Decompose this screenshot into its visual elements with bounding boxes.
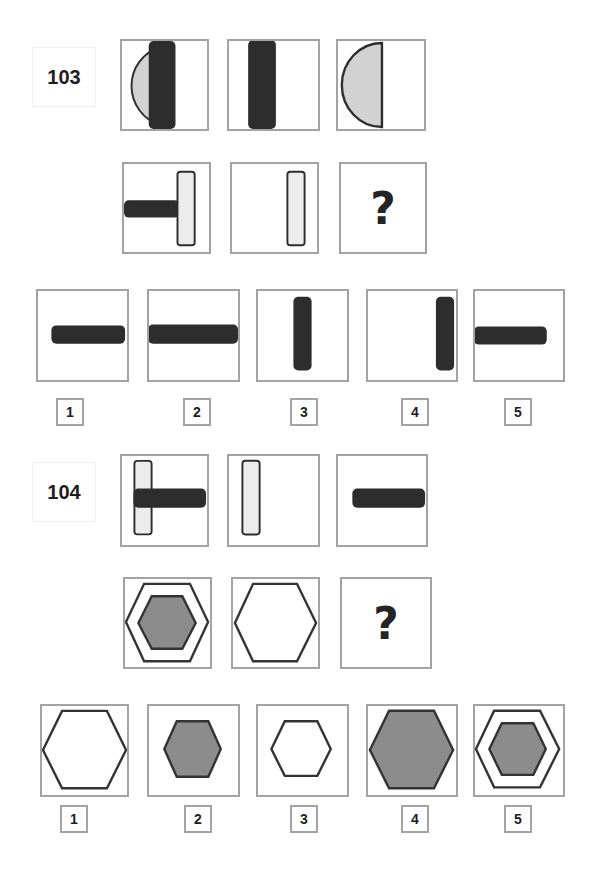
semicircle-left-icon: [338, 41, 424, 129]
horizontal-dark-bar-icon: [149, 291, 238, 380]
option-label-103-3[interactable]: 3: [290, 398, 318, 426]
matrix-cell-104-r1c2: [227, 454, 320, 547]
matrix-cell-103-r1c2: [227, 39, 320, 131]
horizontal-dark-bar-icon: [338, 456, 426, 545]
gray-hexagon-medium-icon: [149, 706, 238, 795]
problem-number-104: 104: [32, 462, 96, 522]
outline-hexagon-small-icon: [258, 706, 347, 795]
nested-hexagon-icon: [125, 579, 210, 667]
matrix-cell-103-r1c3: [336, 39, 426, 131]
matrix-cell-104-r1c3: [336, 454, 428, 547]
vertical-dark-bar-icon: [229, 41, 318, 129]
option-label-103-1[interactable]: 1: [56, 398, 84, 426]
option-104-1[interactable]: [40, 704, 129, 797]
option-label-104-2[interactable]: 2: [184, 805, 212, 833]
option-label-103-5[interactable]: 5: [504, 398, 532, 426]
option-103-3[interactable]: [256, 289, 349, 382]
option-104-5[interactable]: [473, 704, 565, 797]
option-103-5[interactable]: [473, 289, 565, 382]
matrix-cell-104-r2c2: [231, 577, 320, 669]
matrix-cell-103-r2c1: [122, 162, 211, 254]
option-103-2[interactable]: [147, 289, 240, 382]
t-shape-bars-icon: [124, 164, 209, 252]
option-104-3[interactable]: [256, 704, 349, 797]
vertical-light-bar-icon: [229, 456, 318, 545]
option-label-103-2[interactable]: 2: [183, 398, 211, 426]
vertical-light-bar-icon: [232, 164, 317, 252]
option-103-1[interactable]: [36, 289, 129, 382]
horizontal-dark-bar-icon: [38, 291, 127, 380]
option-label-104-1[interactable]: 1: [60, 805, 88, 833]
semicircle-with-bar-icon: [122, 41, 207, 129]
vertical-light-bar-with-horizontal-bar-icon: [122, 456, 207, 545]
nested-hexagon-icon: [475, 706, 563, 795]
question-mark-icon: ?: [342, 579, 430, 667]
option-104-2[interactable]: [147, 704, 240, 797]
gray-hexagon-large-icon: [368, 706, 456, 795]
vertical-dark-bar-icon: [258, 291, 347, 380]
problem-number-103: 103: [32, 47, 96, 107]
option-label-104-5[interactable]: 5: [504, 805, 532, 833]
matrix-cell-104-r2c1: [123, 577, 212, 669]
matrix-cell-103-r2c2: [230, 162, 319, 254]
outline-hexagon-large-icon: [42, 706, 127, 795]
matrix-cell-103-r1c1: [120, 39, 209, 131]
option-label-104-4[interactable]: 4: [401, 805, 429, 833]
matrix-cell-104-r1c1: [120, 454, 209, 547]
question-mark-icon: ?: [341, 164, 425, 252]
matrix-cell-104-r2c3-unknown: ?: [340, 577, 432, 669]
vertical-dark-bar-right-icon: [368, 291, 456, 380]
option-103-4[interactable]: [366, 289, 458, 382]
option-104-4[interactable]: [366, 704, 458, 797]
matrix-cell-103-r2c3-unknown: ?: [339, 162, 427, 254]
option-label-103-4[interactable]: 4: [401, 398, 429, 426]
outline-hexagon-icon: [233, 579, 318, 667]
horizontal-dark-bar-left-icon: [475, 291, 563, 380]
option-label-104-3[interactable]: 3: [290, 805, 318, 833]
